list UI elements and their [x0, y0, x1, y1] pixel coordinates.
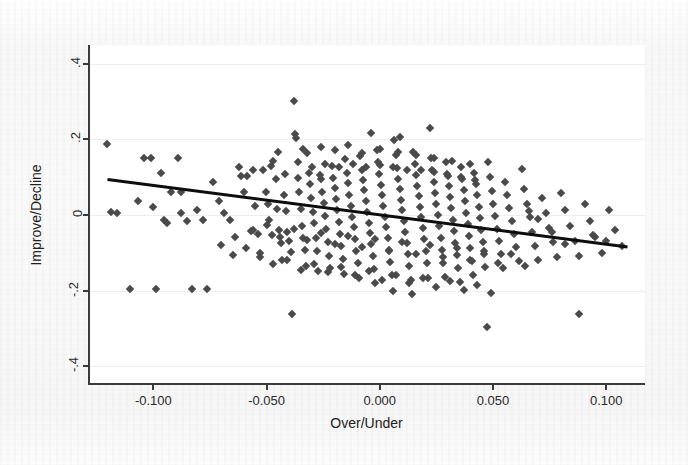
data-point: [364, 218, 372, 226]
data-point: [348, 212, 356, 220]
data-point: [432, 199, 440, 207]
data-point: [538, 193, 546, 201]
plot-area: .4.20-.2-.4 -0.100-0.0500.0000.0500.100: [88, 45, 645, 385]
data-point: [477, 226, 485, 234]
data-point: [489, 199, 497, 207]
data-point: [618, 242, 626, 250]
data-point: [386, 258, 394, 266]
data-point: [353, 259, 361, 267]
data-point: [389, 286, 397, 294]
data-point: [457, 163, 465, 171]
data-point: [459, 286, 467, 294]
data-point: [296, 205, 304, 213]
data-point: [434, 211, 442, 219]
data-point: [330, 184, 338, 192]
data-point: [271, 174, 279, 182]
data-point: [367, 128, 375, 136]
data-point: [383, 234, 391, 242]
data-point: [333, 206, 341, 214]
data-point: [368, 252, 376, 260]
data-point: [410, 159, 418, 167]
data-point: [448, 215, 456, 223]
data-point: [319, 199, 327, 207]
data-point: [528, 227, 536, 235]
data-point: [376, 161, 384, 169]
data-point: [561, 239, 569, 247]
data-point: [317, 143, 325, 151]
data-point: [294, 158, 302, 166]
data-point: [549, 238, 557, 246]
data-point: [553, 252, 561, 260]
y-axis-title-text: Improve/Decline: [28, 164, 44, 265]
data-point: [444, 181, 452, 189]
data-point: [446, 193, 454, 201]
data-point: [495, 237, 503, 245]
data-point: [209, 178, 217, 186]
data-point: [398, 206, 406, 214]
data-point: [557, 189, 565, 197]
data-point: [453, 244, 461, 252]
data-point: [503, 191, 511, 199]
x-axis-tick-label: 0.000: [364, 393, 397, 408]
y-axis-tick: [83, 138, 90, 140]
data-point: [103, 140, 111, 148]
data-point: [243, 172, 251, 180]
data-point: [431, 189, 439, 197]
y-axis-tick-label-text: .2: [69, 133, 82, 144]
y-axis-tick-label: 0: [74, 207, 81, 220]
data-point: [507, 217, 515, 225]
data-point: [454, 264, 462, 272]
y-axis-tick-label: -.4: [66, 358, 81, 371]
data-point: [415, 192, 423, 200]
y-axis-tick-label-text: -.2: [67, 281, 80, 296]
data-point: [147, 153, 155, 161]
data-point: [473, 280, 481, 288]
x-axis-tick: [266, 383, 268, 390]
data-point: [491, 212, 499, 220]
data-point: [317, 175, 325, 183]
y-axis-tick: [83, 365, 90, 367]
data-point: [416, 202, 424, 210]
x-axis-tick: [152, 383, 154, 390]
data-point: [217, 241, 225, 249]
data-point: [474, 202, 482, 210]
data-point: [429, 178, 437, 186]
data-point: [360, 186, 368, 194]
data-point: [214, 196, 222, 204]
data-point: [193, 206, 201, 214]
y-axis-tick: [83, 63, 90, 65]
data-point: [329, 174, 337, 182]
data-point: [242, 244, 250, 252]
data-point: [345, 190, 353, 198]
data-point: [496, 250, 504, 258]
data-point: [321, 212, 329, 220]
data-point: [362, 197, 370, 205]
data-point: [512, 243, 520, 251]
data-point: [465, 232, 473, 240]
data-point: [149, 203, 157, 211]
x-axis-tick: [379, 383, 381, 390]
data-point: [330, 146, 338, 154]
data-point: [466, 244, 474, 252]
y-axis-tick-label-text: 0: [71, 210, 84, 217]
x-axis-title-text: Over/Under: [330, 415, 402, 431]
x-axis-tick-label: -0.100: [135, 393, 172, 408]
data-point: [157, 169, 165, 177]
data-point: [401, 227, 409, 235]
data-point: [294, 174, 302, 182]
data-point: [349, 223, 357, 231]
data-point: [274, 147, 282, 155]
data-point: [338, 255, 346, 263]
data-point: [231, 233, 239, 241]
data-point: [463, 220, 471, 228]
data-point: [344, 140, 352, 148]
data-point: [341, 155, 349, 163]
data-point: [473, 191, 481, 199]
data-point: [486, 173, 494, 181]
data-point: [586, 217, 594, 225]
data-point: [276, 233, 284, 241]
data-point: [405, 262, 413, 270]
data-point: [510, 230, 518, 238]
data-point: [602, 237, 610, 245]
data-point: [534, 256, 542, 264]
